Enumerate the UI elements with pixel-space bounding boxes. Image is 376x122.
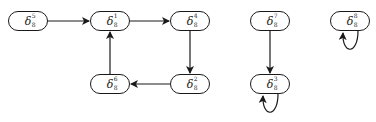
node-symbol: δ	[187, 15, 194, 28]
node-symbol: δ	[347, 15, 354, 28]
node-superscript: 7	[274, 13, 278, 19]
node-subscript: 8	[114, 22, 118, 28]
node-symbol: δ	[267, 78, 274, 91]
node-symbol: δ	[187, 78, 194, 91]
node-symbol: δ	[267, 15, 274, 28]
node-superscript: 2	[194, 76, 198, 82]
node-subscript: 8	[194, 22, 198, 28]
node-symbol: δ	[25, 15, 32, 28]
node-delta-8-6: δ68	[90, 74, 130, 94]
node-superscript: 6	[114, 76, 118, 82]
node-delta-8-3: δ38	[250, 74, 290, 94]
node-superscript: 4	[194, 13, 198, 19]
node-delta-8-2: δ28	[170, 74, 210, 94]
node-superscript: 1	[114, 13, 118, 19]
node-subscript: 8	[32, 22, 36, 28]
self-loop-n3	[263, 94, 278, 112]
node-delta-8-5: δ58	[8, 11, 48, 31]
node-subscript: 8	[274, 85, 278, 91]
node-delta-8-8: δ88	[330, 11, 370, 31]
self-loop-n8	[343, 31, 358, 49]
node-subscript: 8	[354, 22, 358, 28]
node-delta-8-4: δ48	[170, 11, 210, 31]
node-symbol: δ	[107, 78, 114, 91]
node-subscript: 8	[114, 85, 118, 91]
node-superscript: 5	[32, 13, 36, 19]
node-superscript: 8	[354, 13, 358, 19]
node-subscript: 8	[194, 85, 198, 91]
node-symbol: δ	[107, 15, 114, 28]
node-superscript: 3	[274, 76, 278, 82]
node-subscript: 8	[274, 22, 278, 28]
node-delta-8-7: δ78	[250, 11, 290, 31]
node-delta-8-1: δ18	[90, 11, 130, 31]
